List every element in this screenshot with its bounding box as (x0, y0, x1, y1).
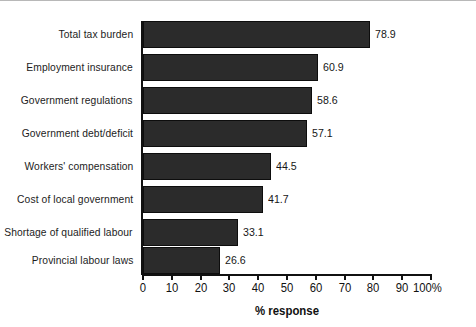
category-label: Cost of local government (17, 186, 133, 213)
bar (143, 153, 271, 180)
bar-value-label: 41.7 (268, 186, 289, 213)
x-axis-tick-label: 40 (252, 281, 265, 295)
category-label: Total tax burden (58, 21, 133, 48)
bar (143, 186, 263, 213)
bar (143, 54, 318, 81)
x-axis-tick-label: 70 (338, 281, 351, 295)
x-axis-tick-label: 0 (140, 281, 146, 295)
x-axis-tick (344, 274, 346, 280)
bar (143, 120, 307, 147)
x-axis-tick (401, 274, 403, 280)
x-axis-tick (286, 274, 288, 280)
x-axis-tick (228, 274, 230, 280)
x-axis-tick (372, 274, 374, 280)
category-label: Shortage of qualified labour (5, 219, 133, 246)
bar-value-label: 57.1 (312, 120, 333, 147)
category-label: Government debt/deficit (22, 120, 133, 147)
bar-value-label: 60.9 (323, 54, 344, 81)
x-axis-tick (142, 274, 144, 280)
bar-value-label: 44.5 (276, 153, 297, 180)
x-axis-tick-label: 20 (194, 281, 207, 295)
x-axis-tick-label: 100% (413, 281, 442, 295)
bar-value-label: 58.6 (317, 87, 338, 114)
bar-chart: Total tax burden Employment insurance Go… (0, 0, 476, 327)
x-axis-tick-label: 60 (310, 281, 323, 295)
x-axis-tick-label: 30 (223, 281, 236, 295)
bar (143, 21, 370, 48)
x-axis-tick (315, 274, 317, 280)
bar-value-label: 78.9 (375, 21, 396, 48)
x-axis-title: % response (150, 304, 424, 318)
x-axis-tick (257, 274, 259, 280)
category-label: Provincial labour laws (31, 247, 133, 274)
plot-area: 78.9 60.9 58.6 57.1 44.5 41.7 33.1 26.6 (143, 21, 433, 274)
x-axis-tick (200, 274, 202, 280)
bar (143, 247, 220, 274)
bar (143, 219, 238, 246)
x-axis-tick-label: 50 (281, 281, 294, 295)
x-axis-tick (171, 274, 173, 280)
category-label: Employment insurance (26, 54, 133, 81)
bar-value-label: 26.6 (225, 247, 246, 274)
x-axis-tick-label: 80 (367, 281, 380, 295)
category-label: Workers' compensation (24, 153, 133, 180)
x-axis-tick-label: 90 (396, 281, 409, 295)
x-axis-tick-label: 10 (166, 281, 179, 295)
bar (143, 87, 312, 114)
x-axis-tick (430, 274, 432, 280)
bar-value-label: 33.1 (243, 219, 264, 246)
category-axis-labels: Total tax burden Employment insurance Go… (0, 21, 139, 274)
category-label: Government regulations (21, 87, 133, 114)
